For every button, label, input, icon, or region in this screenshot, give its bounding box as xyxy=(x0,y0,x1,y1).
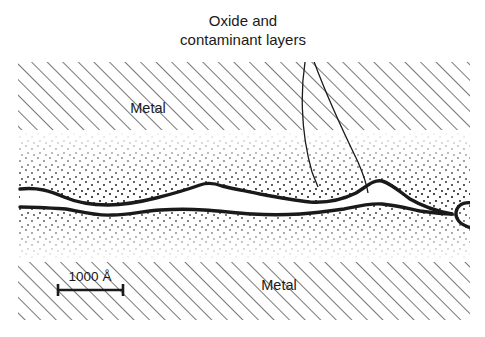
metal-label-upper: Metal xyxy=(130,100,165,116)
scale-bar-label: 1000 Å xyxy=(69,269,112,284)
metal-label-lower: Metal xyxy=(261,277,296,293)
upper-oxide-fade xyxy=(18,130,470,192)
caption-line-2: contaminant layers xyxy=(180,31,306,48)
caption-leader-arrowhead xyxy=(304,47,315,56)
caption-line-1: Oxide and xyxy=(209,12,277,29)
figure-container: Metal Metal 1000 Å Oxide and contaminant… xyxy=(0,0,485,337)
caption-block: Oxide and contaminant layers xyxy=(180,12,306,48)
cross-section-diagram: Metal Metal 1000 Å Oxide and contaminant… xyxy=(0,0,485,337)
